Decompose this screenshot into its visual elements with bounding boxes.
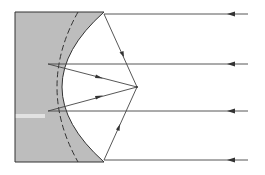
arrow-left-icon <box>227 158 235 163</box>
focal-point <box>136 86 138 88</box>
parabolic-mirror-diagram <box>0 0 265 175</box>
arrow-up-right-icon <box>116 124 120 131</box>
arrow-left-icon <box>227 62 235 67</box>
substrate-highlight-band <box>15 114 45 118</box>
arrow-left-icon <box>227 12 235 17</box>
arrow-left-icon <box>227 109 235 114</box>
mirror-substrate <box>15 12 104 162</box>
arrow-right-icon <box>95 75 103 79</box>
arrow-down-right-icon <box>120 51 125 57</box>
arrow-right-icon <box>95 96 103 100</box>
reflected-ray-4 <box>104 87 137 160</box>
reflected-ray-1 <box>104 14 137 87</box>
